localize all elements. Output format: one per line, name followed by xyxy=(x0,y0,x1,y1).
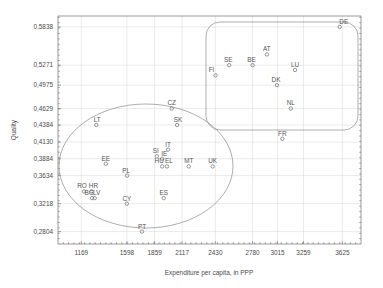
data-point-label: LT xyxy=(94,116,101,123)
y-axis-title: Quality xyxy=(10,119,18,140)
data-point: EE xyxy=(102,155,111,166)
data-point-label: LU xyxy=(291,61,300,68)
data-point: FI xyxy=(209,66,218,77)
x-tick-label: 2430 xyxy=(208,249,223,256)
data-point: EL xyxy=(165,157,173,168)
data-point-label: IT xyxy=(165,141,171,148)
data-point-label: AT xyxy=(263,45,271,52)
scatter-chart: 116915981859211724302780301532593625 0,2… xyxy=(0,0,383,288)
data-point-label: PL xyxy=(122,167,130,174)
x-tick-label: 3015 xyxy=(270,249,285,256)
data-point-marker xyxy=(211,165,214,168)
data-point-label: BE xyxy=(247,56,256,63)
data-point-label: FR xyxy=(278,130,287,137)
data-point-label: IE xyxy=(161,150,167,157)
data-point-label: SK xyxy=(174,116,183,123)
y-tick-label: 0,4629 xyxy=(33,105,53,112)
x-tick-label: 1169 xyxy=(74,249,88,256)
data-point-label: CZ xyxy=(167,99,176,106)
x-tick-label: 2117 xyxy=(175,249,189,256)
data-point-label: PT xyxy=(138,223,146,230)
data-point: LU xyxy=(291,61,300,72)
data-point-label: CY xyxy=(122,195,132,202)
y-tick-label: 0,4975 xyxy=(33,81,53,88)
y-tick-label: 0,4130 xyxy=(33,138,53,145)
data-point-label: DK xyxy=(272,76,282,83)
data-point-label: LV xyxy=(93,189,101,196)
data-point: MT xyxy=(184,157,193,168)
x-tick-label: 1598 xyxy=(120,249,135,256)
data-point-marker xyxy=(293,68,296,71)
y-tick-label: 0,4384 xyxy=(33,121,53,128)
data-point: AT xyxy=(263,45,271,56)
data-point-marker xyxy=(281,137,284,140)
x-tick-label: 2780 xyxy=(245,249,260,256)
chart-canvas: 116915981859211724302780301532593625 0,2… xyxy=(0,0,383,288)
x-tick-label: 1859 xyxy=(148,249,163,256)
y-tick-label: 0,3634 xyxy=(33,172,53,179)
data-point-marker xyxy=(187,165,190,168)
x-tick-label: 3625 xyxy=(335,249,350,256)
x-axis-ticks: 116915981859211724302780301532593625 xyxy=(63,241,355,256)
data-point: LV xyxy=(93,189,101,200)
data-point-marker xyxy=(160,165,163,168)
data-point-label: EL xyxy=(165,157,173,164)
y-tick-label: 0,3218 xyxy=(33,200,53,207)
data-point: SI xyxy=(153,147,159,158)
y-axis-ticks: 0,28040,32180,36340,38840,41300,43840,46… xyxy=(33,17,361,238)
x-tick-label: 3259 xyxy=(296,249,311,256)
high-expenditure-cluster-box xyxy=(206,22,358,130)
data-point-label: SE xyxy=(224,56,233,63)
y-tick-label: 0,5271 xyxy=(33,61,53,68)
data-point: FR xyxy=(278,130,287,141)
data-point-label: SI xyxy=(153,147,159,154)
data-point: ES xyxy=(160,189,169,200)
data-point-label: FI xyxy=(209,66,215,73)
data-point-label: ES xyxy=(160,189,169,196)
data-point-label: HU xyxy=(155,157,165,164)
y-tick-label: 0,5838 xyxy=(33,23,53,30)
y-tick-label: 0,2804 xyxy=(33,228,53,235)
data-point-marker xyxy=(265,53,268,56)
data-point-marker xyxy=(162,196,165,199)
data-point-label: DE xyxy=(339,18,348,25)
data-point-label: NL xyxy=(287,99,296,106)
data-point-marker xyxy=(104,162,107,165)
y-tick-label: 0,3884 xyxy=(33,155,53,162)
data-point: HU xyxy=(155,157,165,168)
data-points: DEATSEBELUFIDKNLFRCZSKLTITSIIEHUELMTUKEE… xyxy=(77,18,348,233)
data-point: UK xyxy=(208,157,218,168)
x-axis-title: Expenditure per capita, in PPP xyxy=(165,269,254,277)
low-expenditure-cluster-ellipse xyxy=(59,104,233,228)
data-point-marker xyxy=(165,165,168,168)
data-point-label: EE xyxy=(102,155,111,162)
data-point-label: UK xyxy=(208,157,218,164)
data-point-label: MT xyxy=(184,157,193,164)
